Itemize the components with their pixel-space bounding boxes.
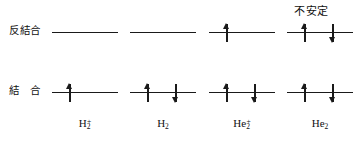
species-label-H2: H2 [133,118,193,130]
electron-arrow-down-antibonding-He2 [328,23,337,43]
arrow-head [301,83,307,89]
species-label-He2-plus: He2+ [212,118,272,130]
annotation-unstable: 不安定 [294,6,329,17]
arrow-head [144,83,150,89]
mo-energy-level-diagram: 反結合 結 合 不安定 H2+H2He2+He2 [0,0,363,142]
species-superscript: + [87,117,91,126]
energy-level-line-bonding-H2 [130,92,196,93]
electron-arrow-down-bonding-He2-plus [250,83,259,103]
species-element: He [312,117,325,129]
arrow-head [172,97,178,103]
arrow-head [251,97,257,103]
electron-arrow-up-bonding-H2 [143,83,152,103]
species-label-He2: He2 [290,118,350,130]
row-label-antibonding: 反結合 [9,26,41,37]
arrow-head [301,23,307,29]
species-label-H2-plus: H2+ [55,118,115,130]
species-superscript: + [246,117,250,126]
energy-level-line-bonding-H2-plus [52,92,118,93]
arrow-head [223,23,229,29]
electron-arrow-down-bonding-He2 [328,83,337,103]
row-label-bonding: 結 合 [9,86,41,97]
species-element: H [79,117,87,129]
electron-arrow-up-antibonding-He2 [300,23,309,43]
energy-level-line-bonding-He2 [287,92,353,93]
electron-arrow-up-bonding-H2-plus [65,83,74,103]
energy-level-line-bonding-He2-plus [209,92,275,93]
electron-arrow-up-bonding-He2 [300,83,309,103]
species-subscript: 2 [165,122,169,131]
species-element: He [233,117,246,129]
energy-level-line-antibonding-He2-plus [209,32,275,33]
arrow-head [223,83,229,89]
electron-arrow-up-antibonding-He2-plus [222,23,231,43]
arrow-head [66,83,72,89]
energy-level-line-antibonding-H2-plus [52,32,118,33]
species-subscript: 2 [325,122,329,131]
energy-level-line-antibonding-He2 [287,32,353,33]
electron-arrow-down-bonding-H2 [171,83,180,103]
energy-level-line-antibonding-H2 [130,32,196,33]
electron-arrow-up-bonding-He2-plus [222,83,231,103]
species-element: H [157,117,165,129]
arrow-head [329,97,335,103]
arrow-head [329,37,335,43]
